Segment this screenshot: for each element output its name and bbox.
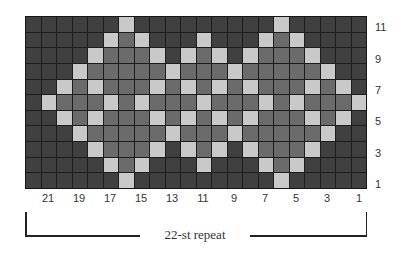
repeat-label: 22-st repeat	[164, 227, 225, 243]
chart-cell	[305, 33, 320, 48]
chart-cell	[352, 64, 367, 79]
chart-cell	[88, 142, 103, 157]
stitch-label-13: 13	[166, 192, 178, 204]
chart-cell	[88, 17, 103, 32]
chart-cell	[181, 17, 196, 32]
chart-cell	[243, 64, 258, 79]
chart-cell	[73, 80, 88, 95]
chart-cell	[42, 126, 57, 141]
chart-cell	[259, 95, 274, 110]
chart-cell	[104, 111, 119, 126]
chart-cell	[73, 173, 88, 188]
chart-cell	[259, 80, 274, 95]
chart-cell	[150, 158, 165, 173]
chart-cell	[26, 64, 41, 79]
chart-cell	[352, 80, 367, 95]
chart-cell	[166, 126, 181, 141]
chart-cell	[336, 64, 351, 79]
chart-cell	[228, 33, 243, 48]
chart-cell	[104, 48, 119, 63]
bracket-right-line	[250, 235, 367, 237]
row-label-3: 3	[375, 147, 381, 159]
chart-cell	[228, 126, 243, 141]
chart-cell	[243, 95, 258, 110]
chart-cell	[104, 142, 119, 157]
chart-cell	[166, 95, 181, 110]
chart-cell	[135, 173, 150, 188]
chart-cell	[135, 95, 150, 110]
chart-cell	[119, 17, 134, 32]
chart-cell	[135, 111, 150, 126]
chart-cell	[305, 17, 320, 32]
chart-cell	[305, 48, 320, 63]
chart-cell	[26, 173, 41, 188]
chart-cell	[88, 126, 103, 141]
chart-cell	[259, 126, 274, 141]
chart-cell	[212, 142, 227, 157]
chart-cell	[197, 158, 212, 173]
chart-cell	[88, 64, 103, 79]
chart-cell	[42, 48, 57, 63]
chart-cell	[228, 48, 243, 63]
chart-cell	[88, 95, 103, 110]
chart-cell	[119, 126, 134, 141]
bracket-left-line	[25, 235, 140, 237]
chart-cell	[26, 126, 41, 141]
chart-cell	[181, 80, 196, 95]
chart-cell	[274, 158, 289, 173]
chart-cell	[336, 95, 351, 110]
chart-cell	[336, 142, 351, 157]
chart-cell	[119, 33, 134, 48]
chart-cell	[212, 17, 227, 32]
chart-cell	[166, 17, 181, 32]
chart-cell	[181, 33, 196, 48]
chart-cell	[104, 33, 119, 48]
chart-cell	[119, 158, 134, 173]
chart-cell	[336, 158, 351, 173]
chart-cell	[212, 126, 227, 141]
stitch-label-21: 21	[42, 192, 54, 204]
chart-cell	[150, 111, 165, 126]
chart-cell	[259, 111, 274, 126]
chart-cell	[166, 158, 181, 173]
chart-cell	[119, 173, 134, 188]
chart-cell	[119, 111, 134, 126]
chart-cell	[88, 33, 103, 48]
chart-cell	[259, 142, 274, 157]
chart-cell	[305, 64, 320, 79]
chart-cell	[197, 142, 212, 157]
chart-cell	[321, 111, 336, 126]
chart-cell	[135, 158, 150, 173]
chart-cell	[274, 173, 289, 188]
chart-cell	[321, 17, 336, 32]
row-label-7: 7	[375, 84, 381, 96]
chart-cell	[73, 142, 88, 157]
chart-cell	[73, 64, 88, 79]
chart-cell	[42, 111, 57, 126]
chart-cell	[73, 48, 88, 63]
chart-cell	[181, 142, 196, 157]
chart-cell	[88, 173, 103, 188]
chart-cell	[104, 64, 119, 79]
knitting-chart-grid	[25, 16, 367, 189]
chart-cell	[150, 173, 165, 188]
chart-cell	[228, 173, 243, 188]
chart-cell	[57, 111, 72, 126]
chart-cell	[26, 80, 41, 95]
chart-cell	[228, 95, 243, 110]
chart-cell	[197, 111, 212, 126]
chart-cell	[290, 17, 305, 32]
chart-cell	[243, 17, 258, 32]
chart-cell	[57, 33, 72, 48]
chart-cell	[104, 17, 119, 32]
chart-cell	[259, 173, 274, 188]
row-label-11: 11	[375, 21, 386, 33]
chart-cell	[321, 48, 336, 63]
chart-cell	[88, 158, 103, 173]
chart-cell	[228, 158, 243, 173]
chart-cell	[290, 173, 305, 188]
chart-cell	[274, 111, 289, 126]
chart-cell	[119, 95, 134, 110]
chart-cell	[259, 64, 274, 79]
chart-cell	[42, 158, 57, 173]
